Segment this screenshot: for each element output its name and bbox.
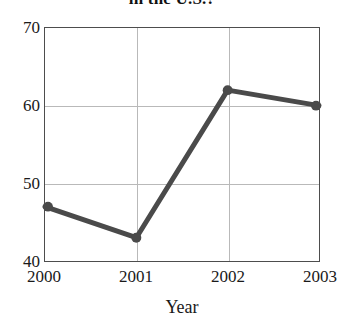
data-point-2003: [311, 101, 321, 111]
chart-figure: in the U.S.? 70 60 50 40 2000 2001 2002 …: [0, 0, 344, 327]
data-point-2002: [223, 85, 233, 95]
x-tick-label-2002: 2002: [188, 268, 268, 285]
x-tick-label-2001: 2001: [96, 268, 176, 285]
y-tick-label-60: 60: [0, 97, 40, 114]
data-point-2001: [131, 233, 141, 243]
data-point-2000: [43, 202, 53, 212]
y-tick-label-70: 70: [0, 19, 40, 36]
data-series-line: [45, 28, 319, 261]
x-tick-label-2000: 2000: [4, 268, 84, 285]
y-axis-tick-labels: 70 60 50 40: [0, 27, 40, 262]
plot-area: [44, 27, 320, 262]
chart-title: in the U.S.?: [0, 0, 344, 9]
x-axis-tick-labels: 2000 2001 2002 2003: [44, 268, 320, 290]
y-tick-label-50: 50: [0, 175, 40, 192]
x-tick-label-2003: 2003: [280, 268, 344, 285]
line-path: [45, 90, 319, 238]
x-axis-title: Year: [44, 297, 320, 317]
